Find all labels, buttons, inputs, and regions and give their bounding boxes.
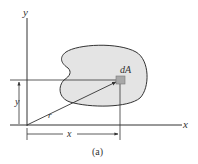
y-dimension-label: y: [14, 96, 20, 107]
dA-label: dA: [120, 64, 132, 75]
area-region: [60, 45, 147, 106]
figure-caption: (a): [92, 146, 103, 158]
area-moment-diagram: y x dA r y x (a): [0, 0, 198, 164]
x-dimension-label: x: [66, 128, 72, 139]
x-axis-label: x: [182, 118, 188, 130]
figure-canvas: y x dA r y x (a): [0, 0, 198, 164]
area-element-dA: [116, 76, 125, 84]
y-axis-label: y: [22, 6, 28, 18]
r-label: r: [48, 110, 52, 120]
